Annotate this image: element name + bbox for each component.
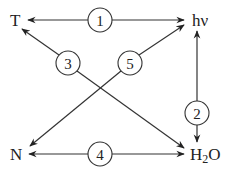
edge-2-label: 2	[185, 101, 209, 125]
edge-1-label: 1	[88, 8, 112, 32]
relationship-diagram: 1 2 3 4 5 T hν N H2O	[0, 0, 236, 172]
edge-3-number: 3	[64, 56, 72, 72]
edge-5	[30, 25, 184, 146]
edge-3	[22, 29, 184, 148]
node-H2O-O: O	[208, 145, 220, 164]
edge-4-number: 4	[96, 147, 104, 163]
edge-1-number: 1	[96, 13, 104, 29]
edge-3-label: 3	[56, 51, 80, 75]
node-H2O-H: H	[190, 145, 202, 164]
edge-5-label: 5	[118, 51, 142, 75]
node-T: T	[10, 11, 21, 30]
node-N: N	[10, 145, 22, 164]
edge-5-number: 5	[126, 56, 134, 72]
node-H2O: H2O	[190, 145, 221, 166]
node-hv: hν	[192, 11, 209, 30]
edge-4-label: 4	[88, 142, 112, 166]
edge-2-number: 2	[193, 106, 201, 122]
